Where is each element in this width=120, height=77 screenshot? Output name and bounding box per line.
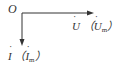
open-paren: （ [83, 20, 94, 32]
origin-label: O [8, 3, 17, 15]
current-symbol: I [8, 51, 12, 62]
close-paren: ） [107, 20, 118, 32]
phasor-axes [0, 0, 120, 77]
current-amplitude-symbol: I [25, 51, 29, 62]
open-paren: （ [14, 50, 25, 62]
close-paren: ） [35, 50, 46, 62]
current-arrowhead-icon [20, 39, 25, 46]
voltage-amplitude-symbol: U [94, 21, 102, 32]
voltage-phasor-label: U （Um） [72, 21, 118, 34]
voltage-symbol: U [72, 21, 80, 32]
voltage-arrowhead-icon [87, 11, 94, 16]
current-phasor-label: I （Im） [8, 51, 46, 64]
